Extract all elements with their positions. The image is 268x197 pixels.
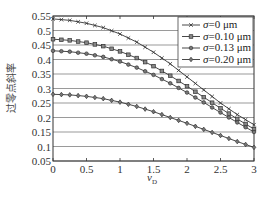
line-chart: 0.550.50.450.40.350.30.250.20.150.10.05 … <box>0 0 268 197</box>
y-tick-label: 0.5 <box>37 25 51 37</box>
y-tick-label: 0.45 <box>32 39 52 51</box>
legend-label: σ=0.10 μm <box>203 30 252 42</box>
y-tick-label: 0.3 <box>37 83 51 95</box>
x-tick-label: 2.5 <box>214 163 228 175</box>
legend-label: σ=0.13 μm <box>203 41 252 53</box>
y-tick-label: 0.35 <box>32 68 52 80</box>
y-tick-label: 0.25 <box>32 97 52 109</box>
series-line <box>51 92 256 150</box>
x-tick-label: 3 <box>251 163 257 175</box>
x-tick-label: 1 <box>117 163 123 175</box>
x-tick-label: 0 <box>50 163 56 175</box>
legend: σ=0 μmσ=0.10 μmσ=0.13 μmσ=0.20 μm <box>178 17 253 67</box>
y-tick-label: 0.1 <box>37 141 51 153</box>
legend-label: σ=0.20 μm <box>203 53 252 65</box>
y-tick-label: 0.15 <box>32 126 52 138</box>
x-tick-label: 0.5 <box>80 163 94 175</box>
x-tick-label: 2 <box>184 163 190 175</box>
y-axis-ticks: 0.550.50.450.40.350.30.250.20.150.10.05 <box>32 10 52 167</box>
legend-label: σ=0 μm <box>203 18 238 30</box>
y-tick-label: 0.05 <box>32 155 52 167</box>
y-axis-label: 过零点斜率 <box>5 63 17 113</box>
y-tick-label: 0.2 <box>37 112 51 124</box>
y-tick-label: 0.4 <box>37 54 51 66</box>
y-tick-label: 0.55 <box>32 10 52 22</box>
